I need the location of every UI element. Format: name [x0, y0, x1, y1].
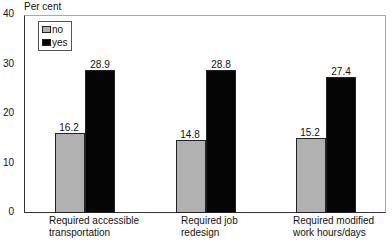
bar-no-accessible-transportation [55, 133, 85, 213]
x-category-2-line-1: Required job [181, 215, 238, 227]
y-tick-30: 30 [0, 58, 14, 69]
legend-swatch-yes-icon [42, 39, 51, 46]
value-label-no-1: 16.2 [49, 122, 89, 133]
y-tick-0: 0 [0, 206, 14, 217]
value-label-no-2: 14.8 [170, 129, 210, 140]
value-label-no-3: 15.2 [290, 127, 330, 138]
value-label-yes-3: 27.4 [321, 66, 361, 77]
bar-no-modified-hours [296, 138, 326, 213]
bar-yes-accessible-transportation [85, 70, 115, 213]
bar-chart: Per cent 40 30 20 10 0 16.2 28.9 14.8 28… [0, 0, 392, 242]
x-category-3-line-2: work hours/days [293, 227, 374, 239]
bar-yes-modified-hours [326, 77, 356, 213]
legend-item-yes: yes [42, 37, 68, 48]
y-tick-40: 40 [0, 8, 14, 19]
legend: no yes [38, 21, 72, 51]
legend-item-no: no [42, 24, 63, 35]
y-tick-10: 10 [0, 157, 14, 168]
x-category-1: Required accessible transportation [49, 215, 139, 239]
bar-no-job-redesign [176, 140, 206, 213]
value-label-yes-1: 28.9 [80, 59, 120, 70]
bar-yes-job-redesign [206, 70, 236, 213]
x-category-2: Required job redesign [181, 215, 238, 239]
y-tick-20: 20 [0, 107, 14, 118]
legend-swatch-no-icon [42, 26, 51, 33]
value-label-yes-2: 28.8 [201, 59, 241, 70]
x-category-1-line-1: Required accessible [49, 215, 139, 227]
y-axis-label: Per cent [24, 1, 61, 12]
legend-label-no: no [52, 24, 63, 35]
x-category-2-line-2: redesign [181, 227, 238, 239]
legend-label-yes: yes [52, 37, 68, 48]
x-category-3: Required modified work hours/days [293, 215, 374, 239]
x-category-1-line-2: transportation [49, 227, 139, 239]
x-category-3-line-1: Required modified [293, 215, 374, 227]
